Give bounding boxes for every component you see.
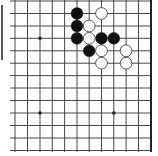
black-stone[interactable] [108, 32, 120, 44]
star-point-icon [38, 37, 42, 41]
black-stone[interactable] [83, 45, 95, 57]
black-stone[interactable] [71, 32, 83, 44]
black-stone[interactable] [96, 32, 108, 44]
white-stone[interactable] [120, 57, 132, 69]
white-stone[interactable] [83, 20, 95, 32]
black-stone[interactable] [71, 20, 83, 32]
white-stone[interactable] [96, 45, 108, 57]
star-point-icon [38, 111, 42, 115]
white-stone[interactable] [96, 57, 108, 69]
white-stone[interactable] [96, 8, 108, 20]
star-point-icon [112, 111, 116, 115]
white-stone[interactable] [83, 32, 95, 44]
white-stone[interactable] [120, 45, 132, 57]
black-stone[interactable] [71, 8, 83, 20]
go-board[interactable] [0, 0, 158, 156]
